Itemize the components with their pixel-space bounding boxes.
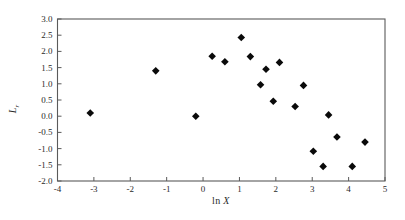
plot-frame <box>58 19 386 181</box>
x-axis-label: ln X <box>57 195 385 206</box>
x-axis-tick-label: 1 <box>237 184 242 194</box>
x-axis-tick-label: -4 <box>54 184 62 194</box>
data-point <box>152 67 160 75</box>
data-point <box>262 65 270 73</box>
y-axis-tick-label: 0.5 <box>41 95 53 105</box>
data-point <box>361 138 369 146</box>
data-point <box>291 103 299 111</box>
data-point <box>237 34 245 42</box>
data-point <box>221 58 229 66</box>
x-axis-tick-label: 2 <box>274 184 279 194</box>
y-axis-tick-label: -2.0 <box>38 176 53 186</box>
x-axis-tick-label: 0 <box>201 184 206 194</box>
y-axis-tick-label: 3.0 <box>41 14 53 24</box>
data-point <box>208 52 216 60</box>
data-point <box>247 53 255 61</box>
data-point <box>300 82 308 90</box>
data-point <box>276 59 284 67</box>
data-point <box>333 133 341 141</box>
y-axis-tick-label: 2.5 <box>41 30 53 40</box>
scatter-plot-figure: -4-3-2-10123453.02.52.01.51.00.50.0-0.5-… <box>0 0 405 220</box>
y-axis-label-main: L <box>7 108 18 114</box>
data-point <box>257 81 265 89</box>
x-axis-tick-label: -2 <box>127 184 135 194</box>
x-axis-label-prefix: ln <box>212 195 221 206</box>
data-point <box>310 147 318 155</box>
y-axis-tick-label: 0.0 <box>41 111 53 121</box>
y-axis-tick-label: -1.5 <box>38 160 53 170</box>
y-axis-tick-label: -0.5 <box>38 127 53 137</box>
y-axis-tick-label: 2.0 <box>41 46 53 56</box>
x-axis-tick-label: -3 <box>90 184 98 194</box>
y-axis-tick-label: -1.0 <box>38 144 53 154</box>
y-axis-tick-label: 1.0 <box>41 79 53 89</box>
data-point <box>86 109 94 117</box>
data-point <box>192 112 200 120</box>
x-axis-tick-label: 4 <box>346 184 351 194</box>
x-axis-tick-label: 5 <box>383 184 388 194</box>
data-point <box>348 163 356 171</box>
y-axis-label-subscript: r <box>13 105 21 108</box>
x-axis-tick-label: -1 <box>163 184 171 194</box>
scatter-chart: -4-3-2-10123453.02.52.01.51.00.50.0-0.5-… <box>0 0 405 220</box>
data-point <box>319 163 327 171</box>
y-axis-tick-label: 1.5 <box>41 63 53 73</box>
x-axis-tick-label: 3 <box>310 184 315 194</box>
data-point <box>325 111 333 119</box>
data-point <box>269 97 277 105</box>
y-axis-label: Lr <box>7 86 21 132</box>
x-axis-label-variable: X <box>223 195 230 206</box>
